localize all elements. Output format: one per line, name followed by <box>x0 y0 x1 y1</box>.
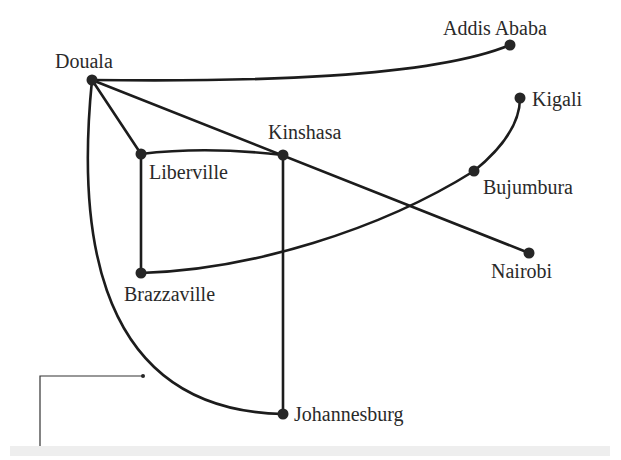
edge-brazzaville-bujumbura <box>141 171 474 273</box>
node-kinshasa <box>278 150 289 161</box>
label-brazzaville: Brazzaville <box>124 283 215 305</box>
node-nairobi <box>524 248 535 259</box>
network-diagram: Douala Addis Ababa Kigali Liberville Kin… <box>0 0 621 460</box>
bottom-strip <box>10 446 610 456</box>
node-kigali <box>515 93 526 104</box>
label-nairobi: Nairobi <box>491 260 553 282</box>
leader-dot <box>141 374 145 378</box>
label-kinshasa: Kinshasa <box>268 121 341 143</box>
node-brazzaville <box>136 268 147 279</box>
label-liberville: Liberville <box>149 161 228 183</box>
edge-douala-johannesburg <box>88 80 283 414</box>
edge-bujumbura-kigali <box>474 98 520 171</box>
edge-douala-liberville <box>92 80 141 154</box>
graph-svg: Douala Addis Ababa Kigali Liberville Kin… <box>0 0 621 460</box>
label-douala: Douala <box>55 50 113 72</box>
edge-liberville-kinshasa <box>141 150 283 155</box>
leader-line <box>40 376 142 450</box>
node-douala <box>87 75 98 86</box>
label-johannesburg: Johannesburg <box>294 403 404 426</box>
node-liberville <box>136 149 147 160</box>
node-bujumbura <box>469 166 480 177</box>
label-bujumbura: Bujumbura <box>483 176 573 199</box>
label-kigali: Kigali <box>532 88 582 111</box>
edge-douala-addis-ababa <box>92 45 510 80</box>
node-johannesburg <box>278 409 289 420</box>
node-addis-ababa <box>505 40 516 51</box>
label-addis-ababa: Addis Ababa <box>443 17 547 39</box>
